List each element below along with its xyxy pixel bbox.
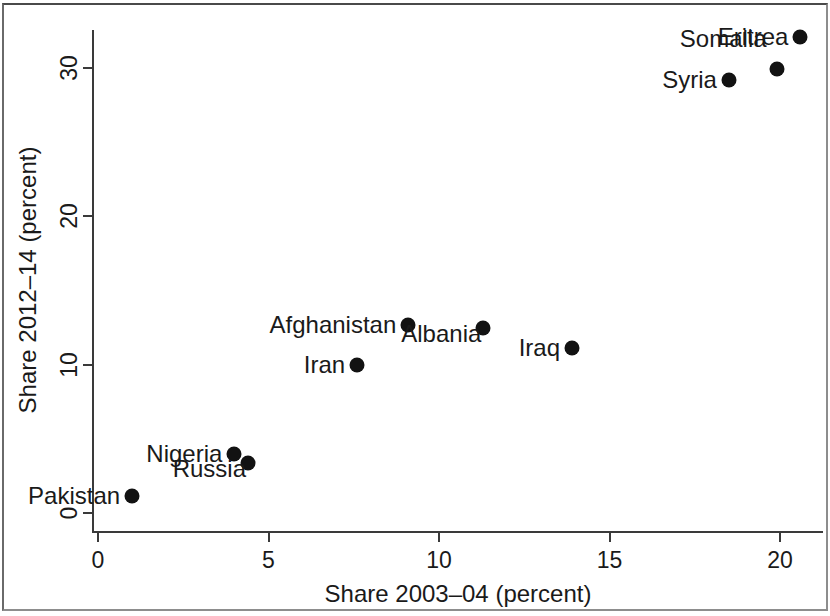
y-tick-0 [83, 512, 92, 514]
y-tick-30 [83, 67, 92, 69]
x-tick-label-5: 5 [262, 547, 275, 574]
data-point-somalia [769, 62, 784, 77]
point-label-albania: Albania [401, 320, 481, 348]
y-tick-10 [83, 364, 92, 366]
point-label-afghanistan: Afghanistan [270, 311, 397, 339]
y-axis-title: Share 2012–14 (percent) [14, 147, 42, 414]
data-point-iraq [564, 341, 579, 356]
x-axis-line [92, 531, 823, 533]
x-tick-label-0: 0 [92, 547, 105, 574]
point-label-syria: Syria [662, 66, 717, 94]
data-point-eritrea [793, 29, 808, 44]
x-tick-label-15: 15 [597, 547, 623, 574]
data-point-iran [350, 357, 365, 372]
plot-area: 05101520 0102030 EritreaSomaliaSyriaAfgh… [0, 0, 830, 616]
x-tick-5 [268, 533, 270, 542]
y-axis-line [92, 30, 94, 533]
point-label-pakistan: Pakistan [28, 482, 120, 510]
x-tick-10 [438, 533, 440, 542]
data-point-pakistan [125, 488, 140, 503]
point-label-iran: Iran [304, 351, 345, 379]
x-tick-20 [779, 533, 781, 542]
data-point-syria [721, 72, 736, 87]
point-label-somalia: Somalia [680, 25, 767, 53]
point-label-iraq: Iraq [519, 334, 560, 362]
y-tick-label-20: 20 [56, 204, 83, 230]
scatter-plot-figure: 05101520 0102030 EritreaSomaliaSyriaAfgh… [0, 0, 830, 616]
y-tick-label-30: 30 [56, 55, 83, 81]
x-tick-label-10: 10 [426, 547, 452, 574]
y-tick-label-10: 10 [56, 352, 83, 378]
x-tick-label-20: 20 [767, 547, 793, 574]
x-tick-0 [97, 533, 99, 542]
x-axis-title: Share 2003–04 (percent) [325, 580, 592, 608]
point-label-russia: Russia [173, 455, 246, 483]
x-tick-15 [609, 533, 611, 542]
y-tick-20 [83, 215, 92, 217]
